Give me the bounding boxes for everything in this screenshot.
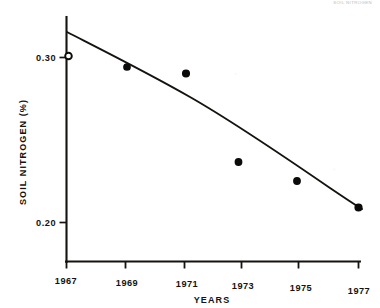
y-axis-title: SOIL NITROGEN (%) — [18, 99, 28, 205]
chart-figure: 0.30 0.20 1967 1969 1971 1973 1975 1977 … — [0, 0, 380, 308]
y-tick-label-lower: 0.20 — [36, 218, 56, 228]
data-point-1971 — [183, 70, 190, 77]
x-tick-label-1971: 1971 — [176, 279, 198, 289]
data-point-group — [65, 53, 362, 211]
data-point-1973 — [235, 159, 241, 165]
x-tick-label-1977: 1977 — [348, 286, 370, 296]
x-tick-label-1973: 1973 — [232, 281, 254, 291]
data-point-1969 — [124, 64, 130, 70]
y-tick-label-upper: 0.30 — [36, 53, 56, 63]
x-tick-label-1975: 1975 — [290, 283, 312, 293]
fitted-decay-curve — [67, 32, 362, 209]
x-tick-label-1967: 1967 — [55, 276, 77, 286]
chart-svg: 0.30 0.20 1967 1969 1971 1973 1975 1977 … — [0, 0, 380, 308]
x-axis-title: YEARS — [194, 295, 231, 305]
x-tick-label-1969: 1969 — [116, 278, 138, 288]
data-point-1967 — [65, 53, 72, 60]
data-point-1977 — [355, 204, 362, 211]
data-point-1975 — [294, 178, 300, 184]
x-tick-labels: 1967 1969 1971 1973 1975 1977 — [55, 276, 370, 296]
